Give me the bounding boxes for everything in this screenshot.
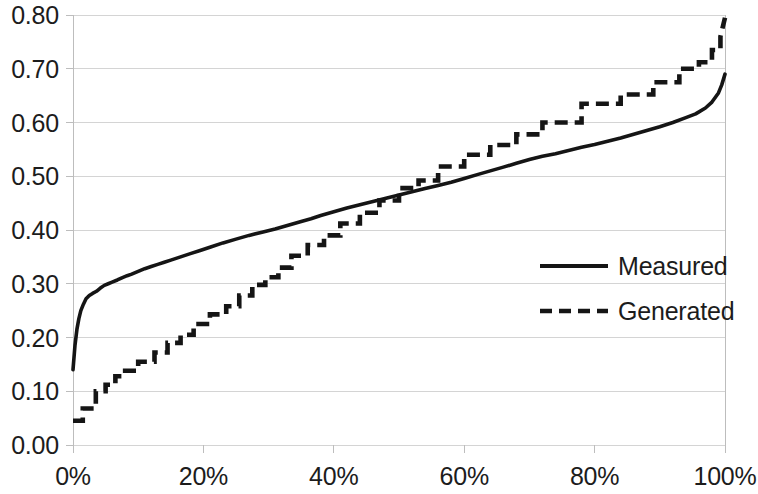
- y-axis-label: 0.80: [11, 1, 59, 29]
- x-axis-label: 60%: [439, 462, 488, 490]
- y-axis-label: 0.00: [11, 431, 59, 459]
- x-axis-label: 100%: [693, 462, 756, 490]
- gridlines: [73, 15, 725, 445]
- chart-canvas: 0.000.100.200.300.400.500.600.700.80 0%2…: [0, 0, 758, 494]
- x-axis-label: 80%: [570, 462, 619, 490]
- x-axis-label: 40%: [309, 462, 358, 490]
- x-axis-label: 20%: [179, 462, 228, 490]
- y-axis-label: 0.70: [11, 55, 59, 83]
- y-axis-label: 0.60: [11, 109, 59, 137]
- tick-marks: [66, 15, 725, 453]
- x-axis-label: 0%: [55, 462, 91, 490]
- y-axis-label: 0.40: [11, 216, 59, 244]
- y-axis-label: 0.10: [11, 377, 59, 405]
- chart-container: 0.000.100.200.300.400.500.600.700.80 0%2…: [0, 0, 758, 494]
- y-axis-label: 0.20: [11, 324, 59, 352]
- legend-label-generated: Generated: [618, 297, 734, 325]
- chart-legend: MeasuredGenerated: [540, 252, 734, 325]
- x-axis-tick-labels: 0%20%40%60%80%100%: [55, 462, 756, 490]
- series-line-generated: [73, 18, 725, 421]
- data-series: [73, 18, 725, 421]
- y-axis-label: 0.30: [11, 270, 59, 298]
- y-axis-tick-labels: 0.000.100.200.300.400.500.600.700.80: [11, 1, 59, 459]
- y-axis-label: 0.50: [11, 162, 59, 190]
- series-line-measured: [73, 74, 725, 370]
- legend-label-measured: Measured: [618, 252, 728, 280]
